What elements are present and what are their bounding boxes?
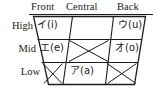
cell-x-central-mid [69, 41, 109, 62]
cell-label-front-mid: エ(e) [40, 42, 64, 53]
japanese-vowel-chart: Front Central Back High Mid Low [0, 0, 155, 98]
cell-label-back-mid: オ(o) [115, 42, 139, 53]
cell-label-front-high: イ(i) [37, 19, 58, 30]
cell-label-back-high: ウ(u) [118, 19, 142, 30]
column-divider-central-back [106, 17, 114, 85]
cell-label-central-low: ア(a) [70, 65, 94, 76]
cell-x-back-low [107, 64, 137, 84]
